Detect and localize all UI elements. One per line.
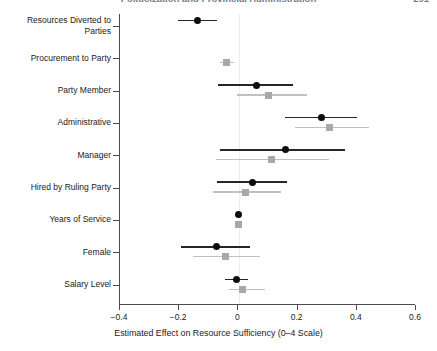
x-axis-tick-label: −0.4 [99,312,139,322]
y-axis-line [119,14,120,305]
estimate-point [222,253,229,260]
estimate-point [318,114,325,121]
confidence-interval-bar [237,94,306,95]
y-axis-tick [113,91,119,92]
category-label: Procurement to Party [0,53,111,64]
coefficient-plot: Resources Diverted to PartiesProcurement… [0,0,437,351]
confidence-interval-bar [229,289,265,290]
x-axis-tick [356,305,357,310]
estimate-point [265,92,272,99]
x-axis-line [119,304,415,305]
estimate-point [235,211,242,218]
y-axis-tick [113,220,119,221]
y-axis-tick [113,285,119,286]
estimate-point [249,179,256,186]
y-axis-tick [113,252,119,253]
x-axis-tick [237,305,238,310]
x-axis-tick-label: −0.2 [158,312,198,322]
y-axis-tick [113,188,119,189]
x-axis-tick [178,305,179,310]
x-axis-tick-label: 0.2 [277,312,317,322]
y-axis-tick [113,26,119,27]
category-label: Hired by Ruling Party [0,182,111,193]
x-axis-tick [119,305,120,310]
estimate-point [326,124,333,131]
estimate-point [194,17,201,24]
estimate-point [239,286,246,293]
x-axis-tick [415,305,416,310]
y-axis-tick [113,58,119,59]
category-label: Years of Service [0,214,111,225]
x-axis-tick-label: 0.4 [336,312,376,322]
estimate-point [282,146,289,153]
estimate-point [268,156,275,163]
category-label: Administrative [0,117,111,128]
x-axis-tick-label: 0.6 [395,312,435,322]
category-label: Female [0,247,111,258]
estimate-point [213,243,220,250]
estimate-point [235,221,242,228]
x-axis-tick [297,305,298,310]
y-axis-tick [113,155,119,156]
category-label: Manager [0,150,111,161]
estimate-point [223,59,230,66]
estimate-point [253,82,260,89]
category-label: Salary Level [0,279,111,290]
category-label: Resources Diverted to Parties [0,15,111,36]
x-axis-tick-label: 0 [217,312,257,322]
category-label: Party Member [0,85,111,96]
x-axis-title: Estimated Effect on Resource Sufficiency… [0,328,437,338]
estimate-point [242,189,249,196]
y-axis-tick [113,123,119,124]
